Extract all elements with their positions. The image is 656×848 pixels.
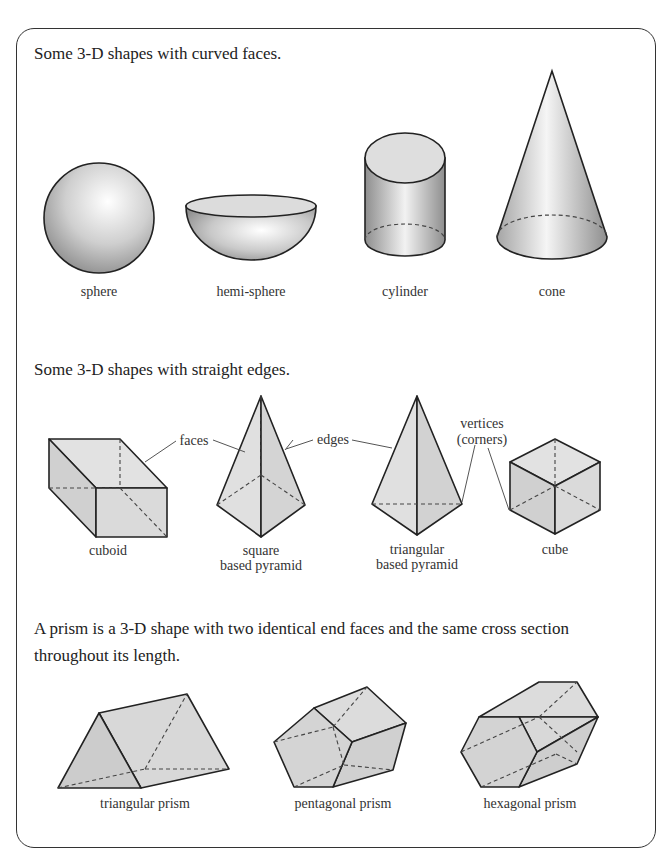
cone-shape <box>497 71 607 259</box>
hemi-sphere-label: hemi-sphere <box>216 284 285 299</box>
cube-label: cube <box>542 542 568 557</box>
cylinder-shape <box>365 133 445 256</box>
triangular-pyramid-label-line1: triangular <box>390 542 445 557</box>
cone-label: cone <box>539 284 565 299</box>
hemisphere-shape <box>186 195 316 260</box>
cylinder-label: cylinder <box>382 284 428 299</box>
triangular-prism-label: triangular prism <box>100 796 190 811</box>
faces-annotation: faces <box>180 433 209 448</box>
triangular-pyramid-label-line2: based pyramid <box>376 557 458 572</box>
edges-annotation: edges <box>317 432 349 447</box>
cuboid-shape <box>49 439 167 537</box>
sphere-shape <box>44 163 154 273</box>
hexagonal-prism-label: hexagonal prism <box>484 796 577 811</box>
vertices-annotation-line1: vertices <box>460 416 504 431</box>
pentagonal-prism-shape <box>274 687 406 787</box>
triangular-prism-shape <box>58 694 229 788</box>
vertices-annotation-line2: (corners) <box>457 432 508 448</box>
square-based-pyramid-shape <box>217 396 305 537</box>
sphere-label: sphere <box>81 284 118 299</box>
triangular-based-pyramid-shape <box>372 396 462 535</box>
cube-shape <box>510 439 600 534</box>
hexagonal-prism-shape <box>461 682 598 787</box>
square-pyramid-label-line1: square <box>243 543 280 558</box>
pentagonal-prism-label: pentagonal prism <box>295 796 392 811</box>
cuboid-label: cuboid <box>89 543 127 558</box>
square-pyramid-label-line2: based pyramid <box>220 558 302 573</box>
